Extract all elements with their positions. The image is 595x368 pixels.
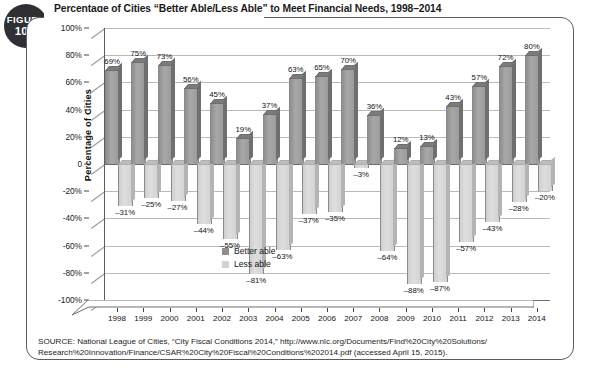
- bar-less-able: [407, 164, 420, 284]
- y-tick-mark: [84, 28, 89, 29]
- bar-better-able: [499, 66, 512, 164]
- chart-plot-area: Percentage of Cities 100%80%60%40%20%0-2…: [26, 22, 574, 330]
- x-tick-mark: [511, 308, 512, 312]
- bar-less-able: [538, 164, 551, 191]
- y-tick-mark: [84, 218, 89, 219]
- bar-better-able: [210, 103, 223, 164]
- bar-better-able: [131, 62, 144, 164]
- bar-value-label-less-able: –31%: [110, 208, 140, 217]
- x-tick-mark: [406, 308, 407, 312]
- bar-value-label-less-able: –81%: [241, 276, 271, 285]
- bar-better-able: [394, 148, 407, 164]
- y-tick-label: 20%: [44, 132, 82, 142]
- x-tick-mark: [327, 308, 328, 312]
- bar-less-able: [302, 164, 315, 214]
- bar-side: [380, 108, 384, 160]
- bar-side: [472, 157, 476, 238]
- bar-value-label-better-able: 80%: [517, 42, 547, 51]
- bar-value-label-better-able: 36%: [359, 102, 389, 111]
- y-tick-mark: [84, 272, 89, 273]
- bar-value-label-better-able: 70%: [333, 56, 363, 65]
- chart-inner: 100%80%60%40%20%0-20%-40%-60%-80%-100% 6…: [88, 28, 564, 324]
- x-tick-mark: [248, 308, 249, 312]
- y-tick-mark: [84, 82, 89, 83]
- y-tick-mark: [84, 191, 89, 192]
- bar-side: [459, 98, 463, 160]
- bar-side: [512, 59, 516, 160]
- figure-page: FIGURE 10.7 Percentage of Cities “Better…: [0, 0, 595, 368]
- bar-value-label-less-able: –20%: [530, 193, 560, 202]
- bar-less-able: [459, 164, 472, 242]
- bar-value-label-better-able: 43%: [438, 93, 468, 102]
- bar-value-label-less-able: –3%: [346, 170, 376, 179]
- y-tick-label: 60%: [44, 77, 82, 87]
- bar-better-able: [525, 55, 538, 164]
- bar-side: [197, 81, 201, 160]
- bar-value-label-better-able: 72%: [491, 53, 521, 62]
- source-line-1: SOURCE: National League of Cities, “City…: [38, 336, 558, 347]
- y-tick-label: -60%: [44, 241, 82, 251]
- bar-value-label-better-able: 19%: [228, 125, 258, 134]
- bar-side: [354, 62, 358, 160]
- bar-less-able: [223, 164, 236, 239]
- x-axis-ticks: 1998199920002001200220032004200520062007…: [88, 314, 550, 332]
- legend-label-better-able: Better able: [234, 246, 276, 256]
- bar-better-able: [236, 138, 249, 164]
- bar-value-label-better-able: 37%: [255, 101, 285, 110]
- bar-value-label-better-able: 45%: [202, 90, 232, 99]
- bar-side: [315, 157, 319, 210]
- bar-value-label-better-able: 57%: [464, 73, 494, 82]
- y-tick-mark: [84, 136, 89, 137]
- x-tick-mark: [432, 308, 433, 312]
- bar-value-label-better-able: 69%: [97, 57, 127, 66]
- y-tick-label: -80%: [44, 268, 82, 278]
- bar-value-label-better-able: 56%: [176, 75, 206, 84]
- x-tick-mark: [458, 308, 459, 312]
- y-tick-mark: [84, 109, 89, 110]
- y-tick-label: 40%: [44, 105, 82, 115]
- y-tick-label: 100%: [44, 23, 82, 33]
- legend-item-less-able: Less able: [222, 259, 276, 269]
- bar-side: [118, 63, 122, 160]
- legend-swatch-better-able-icon: [222, 248, 229, 255]
- bar-side: [236, 157, 240, 235]
- bar-better-able: [420, 146, 433, 164]
- bar-value-label-less-able: –28%: [504, 204, 534, 213]
- bar-side: [223, 96, 227, 160]
- bar-value-label-less-able: –27%: [163, 203, 193, 212]
- legend-label-less-able: Less able: [234, 259, 271, 269]
- bar-better-able: [472, 86, 485, 164]
- bar-side: [144, 55, 148, 160]
- x-tick-mark: [222, 308, 223, 312]
- bar-value-label-better-able: 13%: [412, 133, 442, 142]
- bar-side: [171, 58, 175, 160]
- bar-side: [393, 157, 397, 247]
- x-tick-mark: [353, 308, 354, 312]
- x-tick-mark: [117, 308, 118, 312]
- bar-side: [420, 157, 424, 280]
- x-tick-mark: [484, 308, 485, 312]
- chart-floor: [72, 300, 534, 314]
- bar-side: [302, 71, 306, 160]
- y-tick-label: -40%: [44, 213, 82, 223]
- bar-better-able: [315, 76, 328, 164]
- chart-grid-box: 69%–31%75%–25%73%–27%56%–44%45%–55%19%–8…: [104, 28, 550, 300]
- bar-better-able: [184, 88, 197, 164]
- bar-value-label-less-able: –87%: [425, 284, 455, 293]
- y-tick-mark: [84, 164, 89, 165]
- bar-side: [485, 79, 489, 160]
- y-tick-label: 80%: [44, 50, 82, 60]
- x-tick-mark: [143, 308, 144, 312]
- bar-less-able: [485, 164, 498, 222]
- source-line-2: Research%20Innovation/Finance/CSAR%20Cit…: [38, 347, 558, 358]
- source-note: SOURCE: National League of Cities, “City…: [38, 336, 558, 359]
- x-tick-mark: [196, 308, 197, 312]
- bar-value-label-less-able: –57%: [451, 244, 481, 253]
- bar-value-label-better-able: 73%: [150, 52, 180, 61]
- bar-better-able: [446, 106, 459, 164]
- bar-less-able: [276, 164, 289, 250]
- x-tick-mark: [275, 308, 276, 312]
- bar-less-able: [144, 164, 157, 198]
- bar-less-able: [118, 164, 131, 206]
- bar-less-able: [197, 164, 210, 224]
